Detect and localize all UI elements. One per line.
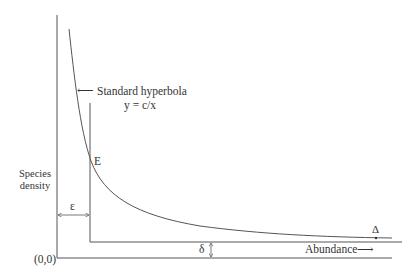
y-axis-label: Species density xyxy=(14,168,56,192)
x-axis-arrow-icon: ⟶ xyxy=(357,243,374,256)
point-e-label: E xyxy=(94,155,101,168)
delta-label: δ xyxy=(199,243,204,256)
y-axis-label-line1: Species xyxy=(14,168,56,180)
delta-point-marker xyxy=(375,237,377,239)
y-axis-label-line2: density xyxy=(14,180,56,192)
x-axis-label: Abundance xyxy=(305,243,357,256)
origin-label: (0,0) xyxy=(34,253,56,266)
curve-label: Standard hyperbola xyxy=(97,85,187,98)
curve-arrow-icon: ⟵ xyxy=(77,84,94,97)
diagram-canvas xyxy=(0,0,420,274)
capital-delta-label: Δ xyxy=(372,223,379,236)
epsilon-label: ε xyxy=(70,200,75,213)
curve-equation: y = c/x xyxy=(124,99,156,112)
hyperbola-curve xyxy=(69,29,392,238)
